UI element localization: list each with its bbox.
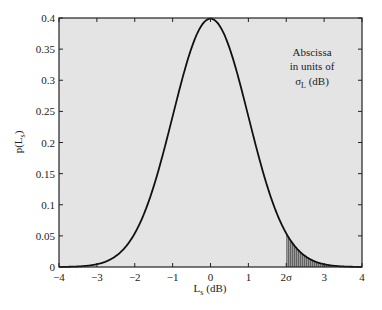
- y-tick-label: 0.1: [41, 199, 55, 211]
- annotation-line-1: Abscissa: [292, 46, 331, 58]
- x-tick-label: −2: [129, 271, 141, 283]
- x-tick-label: −3: [91, 271, 103, 283]
- y-tick-label: 0.2: [41, 137, 55, 149]
- x-tick-label: 3: [321, 271, 327, 283]
- y-tick-label: 0: [50, 261, 56, 273]
- y-tick-label: 0.3: [41, 74, 55, 86]
- y-tick-label: 0.35: [36, 43, 56, 55]
- y-tick-label: 0.15: [36, 168, 56, 180]
- y-axis-label: p(Ls): [12, 130, 27, 153]
- gaussian-pdf-chart: −4−3−2−1012σ34 00.050.10.150.20.250.30.3…: [0, 0, 382, 310]
- y-tick-label: 0.05: [36, 230, 56, 242]
- x-tick-label: −1: [167, 271, 179, 283]
- y-tick-label: 0.25: [36, 105, 56, 117]
- x-axis-label: Ls (dB): [194, 282, 227, 297]
- x-tick-label: 4: [359, 271, 365, 283]
- abscissa-annotation: Abscissa in units of σL (dB): [290, 46, 335, 90]
- y-tick-label: 0.4: [41, 12, 55, 24]
- x-tick-label: 2σ: [281, 271, 293, 283]
- x-tick-label: 1: [246, 271, 252, 283]
- annotation-line-2: in units of: [290, 60, 335, 72]
